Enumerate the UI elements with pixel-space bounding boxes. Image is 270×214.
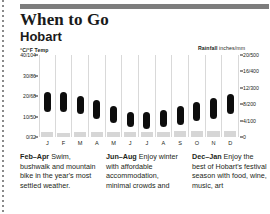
y-axis-tick-mark <box>35 96 38 97</box>
y-axis-tick-label: 40/104 <box>20 52 36 58</box>
x-axis-month-label: O <box>189 140 205 146</box>
rain-axis-word: Rainfall <box>198 45 218 51</box>
rainfall-bar <box>124 132 137 137</box>
temperature-range-bar <box>60 92 67 113</box>
y2-axis-tick-label: 4/100 <box>243 118 256 124</box>
y-axis-tick-mark <box>35 75 38 76</box>
page-content: When to Go Hobart °C/°F Temp Rainfall in… <box>9 0 270 214</box>
page-title: When to Go <box>20 11 109 29</box>
rainfall-bar <box>191 131 204 137</box>
month-column: J <box>39 55 56 137</box>
temperature-range-bar <box>227 94 234 115</box>
x-axis-month-label: A <box>156 140 172 146</box>
rainfall-bar <box>207 131 220 137</box>
temperature-range-bar <box>110 106 117 122</box>
seasonal-note: Dec–Jan Enjoy the best of Hobart's festi… <box>192 152 268 190</box>
rainfall-bar <box>57 133 70 137</box>
temperature-range-bar <box>44 92 50 113</box>
y-axis-tick-mark <box>35 116 38 117</box>
y2-axis-tick-mark <box>240 55 243 56</box>
seasonal-note-range: Dec–Jan <box>192 152 222 161</box>
month-column: O <box>189 55 206 137</box>
month-column: M <box>72 55 89 137</box>
rainfall-bar <box>74 132 87 137</box>
seasonal-notes: Feb–Apr Swim, bushwalk and mountain bike… <box>20 152 269 190</box>
x-axis-month-label: J <box>139 140 155 146</box>
x-axis-month-label: N <box>206 140 222 146</box>
seasonal-note: Jun–Aug Enjoy winter with affordable acc… <box>106 152 182 190</box>
month-column: N <box>206 55 223 137</box>
rainfall-bar <box>224 131 237 137</box>
x-axis-month-label: M <box>106 140 122 146</box>
y2-axis-tick-label: 20/500 <box>243 52 259 58</box>
seasonal-note-range: Jun–Aug <box>106 152 137 161</box>
y-axis-tick-mark <box>35 137 38 138</box>
month-column: J <box>139 55 156 137</box>
x-axis-month-label: A <box>89 140 105 146</box>
x-axis-month-label: M <box>72 140 88 146</box>
month-column: A <box>156 55 173 137</box>
rainfall-bar <box>157 132 170 137</box>
x-axis-month-label: D <box>222 140 238 146</box>
y2-axis-tick-label: 12/300 <box>243 85 259 91</box>
month-column: S <box>172 55 189 137</box>
month-column: J <box>122 55 139 137</box>
x-axis-month-label: S <box>172 140 188 146</box>
temperature-range-bar <box>93 100 100 118</box>
y2-axis-tick-label: 16/400 <box>243 68 259 74</box>
rain-axis-unit: inches/mm <box>219 45 245 51</box>
rainfall-bar <box>174 131 187 137</box>
temp-axis-word: Temp <box>35 47 49 53</box>
month-column: A <box>89 55 106 137</box>
y2-axis-tick-mark <box>240 120 243 121</box>
header-rule <box>20 4 269 9</box>
seasonal-note: Feb–Apr Swim, bushwalk and mountain bike… <box>20 152 96 190</box>
y2-axis-tick-mark <box>240 71 243 72</box>
chart-plot-area: JFMAMJJASOND40/10430/8620/6810/500/3220/… <box>39 55 239 137</box>
page-perforation-edge <box>2 0 4 214</box>
seasonal-note-range: Feb–Apr <box>20 152 49 161</box>
temperature-range-bar <box>143 112 150 128</box>
page-subtitle: Hobart <box>20 30 62 44</box>
month-column: M <box>106 55 123 137</box>
temperature-range-bar <box>193 102 200 120</box>
temperature-range-bar <box>210 98 217 119</box>
rainfall-bar <box>107 132 120 137</box>
rain-axis-caption: Rainfall inches/mm <box>198 45 245 51</box>
y2-axis-tick-mark <box>240 137 243 138</box>
temperature-range-bar <box>127 112 134 126</box>
rainfall-bar <box>91 132 104 137</box>
temperature-range-bar <box>77 96 84 114</box>
y2-axis-tick-mark <box>240 87 243 88</box>
y-axis-tick-mark <box>35 55 38 56</box>
month-column: F <box>56 55 73 137</box>
climate-chart: JFMAMJJASOND40/10430/8620/6810/500/3220/… <box>39 55 239 137</box>
x-axis-month-label: F <box>56 140 72 146</box>
temperature-range-bar <box>177 106 184 124</box>
month-column: D <box>222 55 239 137</box>
y2-axis-tick-label: 0 <box>243 134 246 140</box>
x-axis-month-label: J <box>40 140 55 146</box>
y2-axis-tick-mark <box>240 104 243 105</box>
x-axis-month-label: J <box>122 140 138 146</box>
rainfall-bar <box>141 132 154 137</box>
temperature-range-bar <box>160 110 167 126</box>
y2-axis-tick-label: 8/200 <box>243 101 256 107</box>
rainfall-bar <box>41 132 53 137</box>
